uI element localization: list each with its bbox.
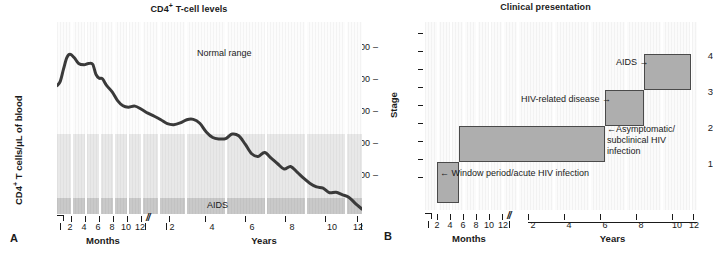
panel-a-upper-tick-row: // xyxy=(57,214,362,222)
gridline-v xyxy=(661,22,663,210)
stage-dash xyxy=(418,177,423,178)
gridline-v xyxy=(476,22,478,210)
minor-tick xyxy=(600,214,601,220)
minor-tick xyxy=(205,216,206,222)
stage-dash xyxy=(418,123,423,124)
stage-dash xyxy=(418,33,423,34)
panel-b-clinical-chart: Clinical presentation Stage 4 3 2 1 xyxy=(378,0,713,253)
gridline-v xyxy=(589,22,591,210)
panel-a-plot-area: Normal range AIDS xyxy=(57,22,362,214)
panel-b-axis-months: 2 4 6 8 10 12 Months xyxy=(428,222,510,232)
panel-a-months-axis-name: Months xyxy=(60,235,146,246)
minor-tick xyxy=(564,214,565,220)
years-tick-12: 12 xyxy=(689,220,699,230)
months-tick-10: 10 xyxy=(484,220,494,230)
panel-a-letter: A xyxy=(10,232,18,244)
stage-dash xyxy=(418,51,423,52)
months-tick-2: 2 xyxy=(67,222,72,232)
years-tick-2: 2 xyxy=(530,220,535,230)
panel-b-years-axis-name: Years xyxy=(528,233,697,244)
months-tick-4: 4 xyxy=(81,222,86,232)
years-tick-10: 10 xyxy=(327,222,337,232)
panel-b-months-axis-name: Months xyxy=(428,233,510,244)
years-tick-8: 8 xyxy=(638,220,643,230)
years-tick-2: 2 xyxy=(169,222,174,232)
years-tick-8: 8 xyxy=(289,222,294,232)
minor-tick xyxy=(245,216,246,222)
annotation-aids: AIDS → xyxy=(616,57,649,68)
stage-bar-4-aids xyxy=(644,54,691,90)
panel-a-title-main: CD4 xyxy=(151,4,169,14)
stage-dash xyxy=(418,105,423,106)
annotation-hiv-related-disease: HIV-related disease → xyxy=(521,94,611,105)
months-tick-2: 2 xyxy=(434,220,439,230)
annotation-window-period: ← Window period/acute HIV infection xyxy=(440,168,589,179)
years-tick-4: 4 xyxy=(566,220,571,230)
years-tick-10: 10 xyxy=(672,220,682,230)
panel-b-axis-label-y: Stage xyxy=(388,92,399,118)
years-tick-6: 6 xyxy=(602,220,607,230)
stage-dash xyxy=(418,87,423,88)
panel-a-yaxis-area: CD4+ T cells/μL of blood xyxy=(4,0,24,215)
stage-dash xyxy=(418,159,423,160)
months-bracket xyxy=(60,223,146,230)
axis-corner-mark xyxy=(425,213,432,219)
minor-tick xyxy=(285,216,286,222)
gridline-v xyxy=(463,22,465,210)
months-tick-4: 4 xyxy=(447,220,452,230)
stage-dash xyxy=(418,69,423,70)
minor-tick xyxy=(528,214,529,220)
panel-b-stripe-texture xyxy=(425,22,697,210)
panel-b-title: Clinical presentation xyxy=(378,2,713,12)
stage-dash xyxy=(418,141,423,142)
annotation-asymptomatic: ←Asymptomatic/ subclinical HIV infection xyxy=(607,124,685,157)
gridline-v xyxy=(502,22,504,210)
panel-a-axis-years: 2 4 6 8 10 12 Years xyxy=(166,224,362,234)
panel-a-title-rest: T-cell levels xyxy=(173,4,227,14)
years-tick-12: 12 xyxy=(353,222,363,232)
panel-a-years-axis-name: Years xyxy=(166,235,362,246)
months-tick-8: 8 xyxy=(109,222,114,232)
months-tick-6: 6 xyxy=(460,220,465,230)
months-tick-10: 10 xyxy=(121,222,131,232)
panel-a-axis-label-y: CD4+ T cells/μL of blood xyxy=(12,55,24,205)
panel-b-letter: B xyxy=(384,230,392,242)
stage-bar-2-asymptomatic xyxy=(459,126,605,162)
panel-a-axis-months: 2 4 6 8 10 12 Months xyxy=(60,224,146,234)
axis-corner-mark xyxy=(57,215,64,221)
gridline-v xyxy=(489,22,491,210)
months-tick-6: 6 xyxy=(95,222,100,232)
gridline-v xyxy=(553,22,555,210)
gridline-v xyxy=(690,22,692,210)
label-normal-range: Normal range xyxy=(197,48,252,58)
panel-b-plot-area xyxy=(425,22,697,210)
gridline-v xyxy=(517,22,519,210)
months-tick-12: 12 xyxy=(498,220,508,230)
panel-b-axis-years: 2 4 6 8 10 12 Years xyxy=(528,222,697,232)
label-aids-zone: AIDS xyxy=(207,200,228,210)
months-tick-8: 8 xyxy=(473,220,478,230)
minor-tick xyxy=(636,214,637,220)
figure-root: CD4+ T-cell levels CD4+ T cells/μL of bl… xyxy=(0,0,713,253)
axis-break-mark: // xyxy=(146,212,150,223)
months-tick-12: 12 xyxy=(135,222,145,232)
panel-a-cd4-chart: CD4+ T-cell levels CD4+ T cells/μL of bl… xyxy=(0,0,378,253)
years-tick-6: 6 xyxy=(249,222,254,232)
panel-b-upper-tick-row: // xyxy=(425,212,697,220)
panel-a-title: CD4+ T-cell levels xyxy=(0,2,378,14)
years-tick-4: 4 xyxy=(209,222,214,232)
